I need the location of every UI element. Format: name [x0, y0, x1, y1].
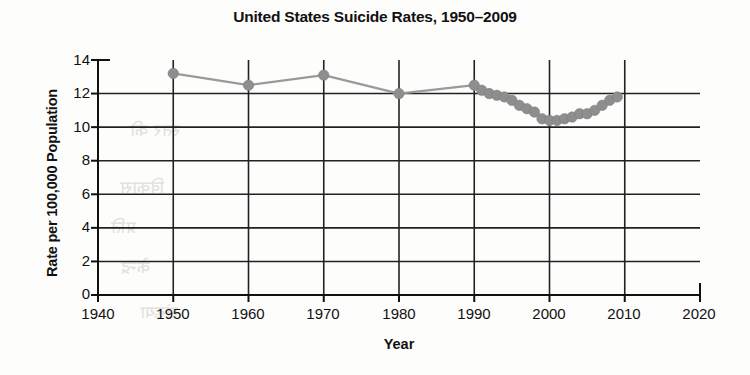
plot-area	[0, 0, 750, 375]
chart-figure: स्तर की विकास प्रति केन्द्र संख्या Unite…	[0, 0, 750, 375]
series-markers	[168, 68, 622, 125]
